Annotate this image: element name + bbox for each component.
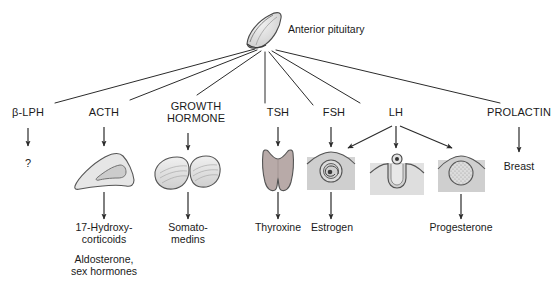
product-arrows bbox=[104, 192, 461, 219]
hormone-label-tsh: TSH bbox=[267, 106, 289, 118]
product-label-somatomedins-line2: medins bbox=[171, 234, 205, 246]
hormone-label-acth: ACTH bbox=[89, 106, 119, 118]
arrow-lh-to-follicle bbox=[348, 126, 392, 148]
product-label-aldosterone-line1: Aldosterone, bbox=[75, 254, 134, 266]
arrow-lh-to-corpus-luteum bbox=[400, 126, 452, 148]
hormone-label-lh: LH bbox=[389, 106, 403, 118]
target-label-unknown: ? bbox=[25, 157, 31, 169]
line-to-prolactin bbox=[276, 50, 500, 103]
line-to-acth bbox=[130, 50, 257, 100]
target-label-breast: Breast bbox=[504, 161, 534, 173]
product-label-progesterone: Progesterone bbox=[429, 222, 492, 234]
lh-branch-arrows bbox=[348, 126, 452, 148]
hormone-label-prolactin: PROLACTIN bbox=[487, 106, 551, 118]
hormone-radiating-lines bbox=[55, 49, 500, 105]
hormone-stem-arrows bbox=[28, 127, 519, 152]
product-label-hydroxycorticoids-line1: 17-Hydroxy- bbox=[75, 222, 132, 234]
thyroid-gland-icon bbox=[263, 150, 294, 191]
ovulation-icon bbox=[370, 154, 424, 195]
liver-icon bbox=[155, 156, 220, 189]
product-label-aldosterone-line2: sex hormones bbox=[71, 266, 137, 278]
product-label-hydroxycorticoids-line2: corticoids bbox=[82, 234, 126, 246]
corpus-luteum-icon bbox=[438, 156, 485, 192]
adrenal-gland-icon bbox=[75, 153, 134, 189]
pituitary-hormone-diagram: Anterior pituitary β-LPH ACTH GROWTH HOR… bbox=[0, 0, 560, 287]
product-label-estrogen: Estrogen bbox=[311, 222, 353, 234]
anterior-pituitary-label: Anterior pituitary bbox=[288, 24, 364, 36]
hormone-label-growth-hormone: GROWTH HORMONE bbox=[167, 100, 225, 125]
hormone-label-b-lph: β-LPH bbox=[12, 106, 44, 118]
product-label-thyroxine: Thyroxine bbox=[255, 222, 301, 234]
hormone-label-fsh: FSH bbox=[323, 106, 345, 118]
ovarian-follicle-icon bbox=[307, 152, 355, 190]
pituitary-gland-icon bbox=[247, 13, 281, 49]
line-to-fsh bbox=[269, 52, 313, 105]
product-label-somatomedins-line1: Somato- bbox=[168, 222, 208, 234]
line-to-lh bbox=[272, 51, 360, 103]
line-to-growth-hormone bbox=[197, 51, 261, 95]
